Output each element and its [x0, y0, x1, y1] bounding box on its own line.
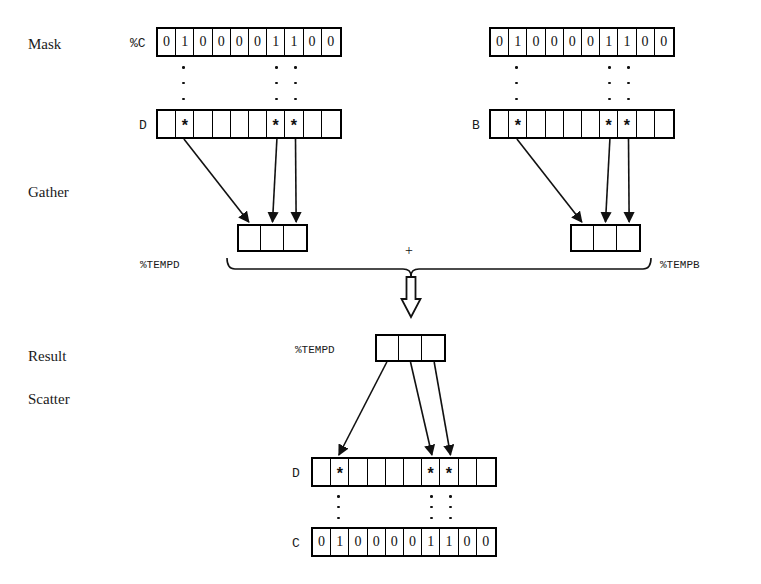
mask-to-data-dotted-link: [294, 66, 297, 100]
data-to-mask-dotted-link: [337, 495, 340, 519]
connector-arrow: [629, 139, 630, 222]
brace-left-half: [227, 258, 411, 276]
mask-to-data-dotted-link: [608, 66, 611, 100]
mask-to-data-dotted-link: [627, 66, 630, 100]
data-to-mask-dotted-link: [449, 495, 452, 519]
diagram-canvas: Mask Gather Result Scatter %C 0100001100…: [0, 0, 761, 584]
connector-arrow: [411, 362, 432, 455]
data-to-mask-dotted-link: [430, 495, 433, 519]
brace-right-half: [411, 258, 651, 276]
hollow-down-arrow: [402, 277, 421, 317]
mask-to-data-dotted-link: [275, 66, 278, 100]
connector-arrow: [184, 139, 249, 222]
connector-arrow: [296, 139, 297, 222]
connector-arrow: [339, 362, 387, 455]
mask-to-data-dotted-link: [515, 66, 518, 100]
connector-arrow: [434, 362, 450, 455]
diagram-connectors: [0, 0, 761, 584]
connector-arrow: [273, 139, 277, 222]
connector-arrow: [606, 139, 610, 222]
mask-to-data-dotted-link: [182, 66, 185, 100]
connector-arrow: [517, 139, 582, 222]
